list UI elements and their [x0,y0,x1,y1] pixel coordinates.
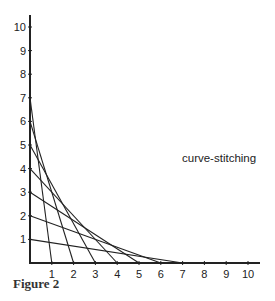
y-tick-label: 5 [20,139,26,151]
x-tick-label: 8 [201,268,207,280]
y-tick-label: 2 [20,210,26,222]
y-tick-label: 7 [20,92,26,104]
curve-stitching-diagram: 1234567891012345678910curve-stitching [0,0,275,301]
y-tick-label: 4 [20,163,26,175]
x-tick-label: 6 [158,268,164,280]
stitch-line [30,216,161,263]
x-tick-label: 3 [92,268,98,280]
curve-stitching-label: curve-stitching [182,152,256,164]
x-tick-label: 7 [180,268,186,280]
y-tick-label: 8 [20,68,26,80]
x-tick-label: 4 [114,268,120,280]
y-tick-label: 6 [20,115,26,127]
x-tick-label: 2 [71,268,77,280]
y-tick-label: 3 [20,186,26,198]
x-tick-label: 5 [136,268,142,280]
y-tick-label: 9 [20,45,26,57]
y-tick-label: 1 [20,233,26,245]
y-tick-label: 10 [14,21,26,33]
figure-caption: Figure 2 [13,276,59,292]
stitch-line [30,192,139,263]
stitch-line [30,169,117,263]
x-tick-label: 10 [242,268,254,280]
x-tick-label: 9 [223,268,229,280]
